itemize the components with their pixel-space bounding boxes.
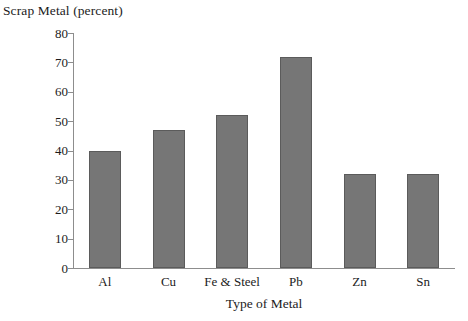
y-tick-label: 0 (62, 261, 69, 277)
bar-zn (344, 174, 376, 268)
x-label-pb: Pb (264, 274, 328, 290)
x-axis-line (73, 268, 455, 269)
y-tick-0: 0 (73, 268, 74, 269)
y-tick-label: 50 (55, 114, 68, 130)
y-tick-label: 40 (55, 143, 68, 159)
x-label-fe-steel: Fe & Steel (200, 274, 264, 290)
y-tick-label: 30 (55, 172, 68, 188)
chart-title: Scrap Metal (percent) (3, 3, 123, 19)
bar-fe-steel (216, 115, 248, 268)
y-tick-label: 10 (55, 231, 68, 247)
x-label-zn: Zn (328, 274, 392, 290)
x-label-cu: Cu (137, 274, 201, 290)
x-label-sn: Sn (391, 274, 455, 290)
bar-chart-figure: Scrap Metal (percent) 01020304050607080 … (0, 0, 468, 321)
y-tick-label: 70 (55, 55, 68, 71)
x-axis-title: Type of Metal (73, 296, 455, 312)
bar-pb (280, 57, 312, 269)
plot-area: 01020304050607080 AlCuFe & SteelPbZnSn (73, 33, 455, 268)
bar-sn (407, 174, 439, 268)
bars-layer (73, 33, 455, 268)
y-tick-label: 80 (55, 26, 68, 42)
bar-al (89, 151, 121, 269)
y-tick-label: 60 (55, 84, 68, 100)
y-tick-label: 20 (55, 202, 68, 218)
y-tick-mark (68, 268, 73, 269)
bar-cu (153, 130, 185, 268)
x-label-al: Al (73, 274, 137, 290)
